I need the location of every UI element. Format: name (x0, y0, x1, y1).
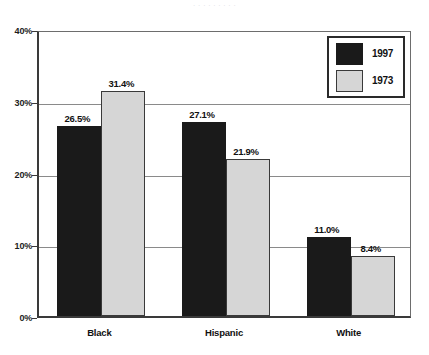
y-axis-tick-label: 10% (0, 241, 32, 251)
bar-value-label: 26.5% (65, 113, 90, 124)
legend-item-1973[interactable]: 1973 (336, 70, 400, 92)
bar-chart: . . . . . . . . . 0%10%20%30%40% 26.5%31… (0, 0, 429, 355)
bar-value-label: 27.1% (189, 109, 214, 120)
legend-label-1997: 1997 (372, 48, 393, 59)
legend-swatch-1997 (336, 43, 363, 65)
x-axis-label-white: White (336, 327, 361, 338)
x-axis-label-black: Black (87, 327, 111, 338)
legend-label-1973: 1973 (372, 75, 393, 86)
y-axis-tick-label: 0% (0, 313, 32, 323)
bar-black-1973[interactable] (101, 91, 145, 316)
y-axis-tick-mark (32, 318, 37, 319)
bar-white-1997[interactable] (307, 237, 351, 316)
y-axis-tick-label: 40% (0, 26, 32, 36)
gridline (39, 104, 410, 105)
bar-value-label: 8.4% (360, 243, 380, 254)
bar-black-1997[interactable] (57, 126, 101, 316)
bar-hispanic-1997[interactable] (182, 122, 226, 316)
legend-swatch-1973 (336, 70, 363, 92)
bar-value-label: 31.4% (109, 78, 134, 89)
legend[interactable]: 1997 1973 (327, 36, 405, 98)
caption-remnant: . . . . . . . . . (0, 0, 429, 7)
bar-value-label: 11.0% (314, 224, 339, 235)
bar-value-label: 21.9% (233, 146, 258, 157)
bar-hispanic-1973[interactable] (226, 159, 270, 316)
y-axis-tick-label: 30% (0, 98, 32, 108)
y-axis-tick-label: 20% (0, 170, 32, 180)
legend-item-1997[interactable]: 1997 (336, 43, 400, 65)
x-axis-label-hispanic: Hispanic (205, 327, 243, 338)
bar-white-1973[interactable] (351, 256, 395, 316)
